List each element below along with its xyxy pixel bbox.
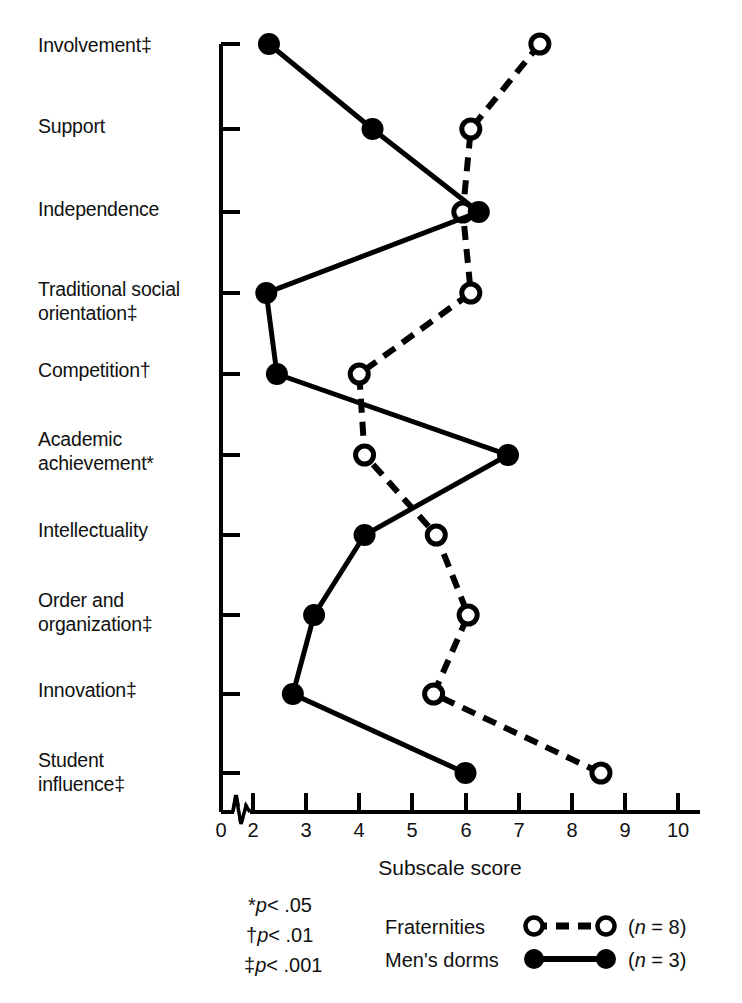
xtick-6: 6 — [446, 820, 486, 840]
series-fraternities — [350, 35, 610, 782]
legend-n-paren-open: ( — [628, 916, 635, 938]
data-point-open — [462, 120, 480, 138]
footnote-value: < .01 — [268, 924, 313, 946]
chart-figure: Involvement‡ Support Independence Tradit… — [0, 0, 742, 1003]
data-point-filled — [266, 363, 288, 385]
data-point-filled — [362, 118, 384, 140]
series-line — [359, 44, 601, 773]
data-point-open — [350, 365, 368, 383]
data-point-filled — [282, 683, 304, 705]
xtick-2: 2 — [233, 820, 273, 840]
xtick-7: 7 — [499, 820, 539, 840]
legend-label-mens-dorms: Men's dorms — [385, 948, 499, 972]
legend-n-variable: n — [635, 916, 646, 938]
data-point-open — [592, 764, 610, 782]
footnote-symbol-asterisk: * — [248, 894, 256, 916]
footnote-p-italic: p — [255, 954, 266, 976]
legend-label-fraternities: Fraternities — [385, 915, 485, 939]
xtick-8: 8 — [552, 820, 592, 840]
x-axis-title: Subscale score — [330, 856, 570, 880]
data-point-filled — [354, 524, 376, 546]
xtick-5: 5 — [392, 820, 432, 840]
legend-n-mens-dorms: (n = 3) — [628, 948, 686, 972]
footnote-p001: ‡p< .001 — [244, 950, 322, 980]
data-point-filled — [255, 282, 277, 304]
data-point-open — [531, 35, 549, 53]
footnote-symbol-dagger: † — [246, 924, 257, 946]
xtick-4: 4 — [339, 820, 379, 840]
footnote-value: < .05 — [267, 894, 312, 916]
data-point-filled — [303, 604, 325, 626]
plot-canvas — [0, 0, 742, 1003]
xtick-9: 9 — [605, 820, 645, 840]
legend-n-variable: n — [635, 949, 646, 971]
xtick-3: 3 — [286, 820, 326, 840]
series-men-s-dorms — [255, 33, 519, 784]
data-point-filled — [455, 762, 477, 784]
legend-n-fraternities: (n = 8) — [628, 915, 686, 939]
series-layer — [255, 33, 610, 784]
footnote-p-italic: p — [256, 894, 267, 916]
series-line — [266, 44, 508, 773]
xtick-10: 10 — [658, 820, 698, 840]
footnote-p-italic: p — [257, 924, 268, 946]
data-point-open — [427, 526, 445, 544]
y-axis — [221, 44, 240, 812]
legend-n-paren-open: ( — [628, 949, 635, 971]
legend-n-value: = 8) — [646, 916, 687, 938]
data-point-filled — [497, 444, 519, 466]
data-point-filled — [468, 201, 490, 223]
data-point-filled — [258, 33, 280, 55]
footnote-p05: *p< .05 — [248, 890, 312, 920]
data-point-open — [459, 606, 477, 624]
data-point-open — [425, 685, 443, 703]
footnote-p01: †p< .01 — [246, 920, 313, 950]
footnote-value: < .001 — [266, 954, 322, 976]
data-point-open — [462, 284, 480, 302]
data-point-open — [356, 446, 374, 464]
legend-n-value: = 3) — [646, 949, 687, 971]
footnote-symbol-double-dagger: ‡ — [244, 954, 255, 976]
